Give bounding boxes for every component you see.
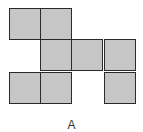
square-r2-c1 [40, 72, 72, 104]
square-r1-c2 [71, 39, 103, 71]
square-r2-c0 [9, 72, 41, 104]
figure-label: A [0, 118, 143, 132]
square-r0-c0 [9, 8, 41, 40]
square-r0-c1 [40, 8, 72, 40]
net-figure [0, 0, 143, 112]
square-r2-c3 [104, 72, 136, 104]
square-r1-c3 [104, 39, 136, 71]
square-r1-c1 [40, 39, 72, 71]
